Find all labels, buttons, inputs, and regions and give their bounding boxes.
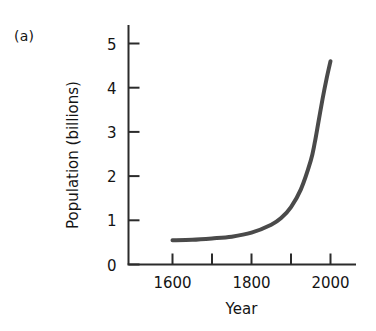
x-axis-tick-label: 1800 xyxy=(232,274,270,292)
y-axis-tick-label: 3 xyxy=(107,124,117,142)
y-axis-tick-label: 1 xyxy=(107,212,117,230)
axes xyxy=(128,25,357,265)
x-axis-ticks: 160018002000 xyxy=(153,254,349,292)
y-axis-ticks: 012345 xyxy=(107,36,140,275)
data-series xyxy=(173,61,331,240)
y-axis-tick-label: 2 xyxy=(107,168,117,186)
y-axis-tick-label: 4 xyxy=(107,80,117,98)
x-axis-tick-label: 2000 xyxy=(311,274,349,292)
x-axis-tick-label: 1600 xyxy=(153,274,191,292)
population-line-chart: 012345 160018002000 xyxy=(0,0,376,331)
figure-panel: (a) Population (billions) Year 012345 16… xyxy=(0,0,376,331)
population-curve xyxy=(173,61,331,240)
y-axis-tick-label: 5 xyxy=(107,36,117,54)
y-axis-tick-label: 0 xyxy=(107,257,117,275)
